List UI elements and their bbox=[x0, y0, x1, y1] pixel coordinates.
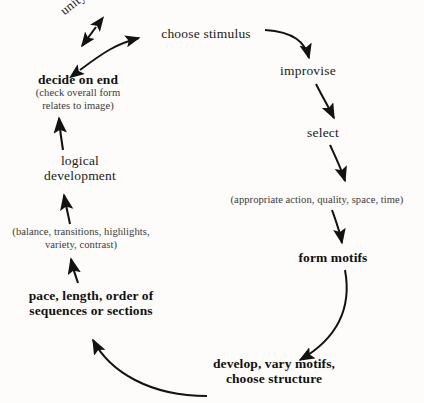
arrow-balance-to-logical bbox=[64, 195, 70, 224]
node-form-motifs-label: form motifs bbox=[286, 250, 380, 265]
annotation-balance-line1: (balance, transitions, highlights, bbox=[12, 226, 149, 237]
unity-label: unity bbox=[57, 0, 89, 19]
arrow-decide-to-choose bbox=[80, 38, 139, 70]
node-develop-vary-motifs: develop, vary motifs, choose structure bbox=[194, 356, 354, 387]
arrow-pace-to-balance bbox=[71, 259, 78, 283]
arrow-annotation-to-form-motifs bbox=[332, 210, 342, 243]
arrow-select-to-annotation bbox=[330, 145, 345, 181]
node-pace-line2: sequences or sections bbox=[6, 303, 176, 318]
node-improvise: improvise bbox=[262, 63, 354, 78]
node-decide-on-end: decide on end (check overall form relate… bbox=[12, 72, 144, 113]
node-logical-line2: development bbox=[20, 168, 140, 183]
arrow-logical-to-decide bbox=[59, 118, 63, 150]
annotation-balance: (balance, transitions, highlights, varie… bbox=[0, 226, 162, 252]
node-logical-line1: logical bbox=[20, 153, 140, 168]
arrow-develop-to-pace bbox=[93, 340, 207, 396]
node-select-label: select bbox=[288, 125, 358, 140]
annotation-appropriate: (appropriate action, quality, space, tim… bbox=[214, 194, 420, 207]
arrow-choose-to-improvise bbox=[265, 30, 309, 58]
node-form-motifs: form motifs bbox=[286, 250, 380, 265]
annotation-appropriate-text: (appropriate action, quality, space, tim… bbox=[231, 194, 404, 205]
node-develop-line1: develop, vary motifs, bbox=[194, 356, 354, 371]
annotation-balance-line2: variety, contrast) bbox=[45, 239, 117, 250]
node-choose-stimulus: choose stimulus bbox=[146, 26, 266, 41]
node-pace-line1: pace, length, order of bbox=[6, 288, 176, 303]
node-select: select bbox=[288, 125, 358, 140]
cycle-diagram: choose stimulus (double headed curved) -… bbox=[0, 0, 424, 403]
node-decide-sub2: relates to image) bbox=[12, 100, 144, 113]
node-logical-development: logical development bbox=[20, 153, 140, 184]
node-develop-line2: choose structure bbox=[194, 371, 354, 386]
node-improvise-label: improvise bbox=[262, 63, 354, 78]
node-decide-label: decide on end bbox=[12, 72, 144, 87]
node-pace-length-order: pace, length, order of sequences or sect… bbox=[6, 288, 176, 319]
node-decide-sub1: (check overall form bbox=[12, 87, 144, 100]
arrow-unity-double bbox=[82, 27, 96, 46]
arrow-form-motifs-to-develop bbox=[300, 270, 347, 360]
arrow-improvise-to-select bbox=[316, 84, 334, 118]
node-choose-stimulus-label: choose stimulus bbox=[146, 26, 266, 41]
